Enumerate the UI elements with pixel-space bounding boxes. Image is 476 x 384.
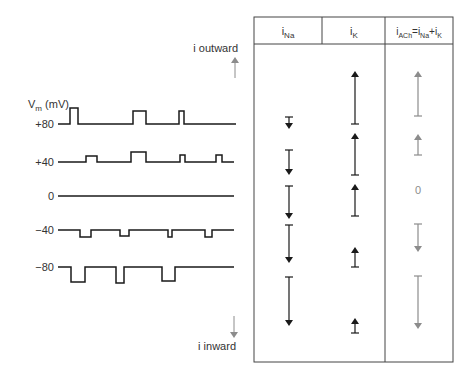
current-table xyxy=(254,17,453,362)
voltage-label: −80 xyxy=(35,261,54,273)
trace-plus80 xyxy=(58,108,236,124)
voltage-label: −40 xyxy=(35,224,54,236)
diagram-canvas: Vm (mV) i outward i inward +80 +40 0 −40… xyxy=(0,0,476,384)
ik-arrows xyxy=(351,74,359,333)
voltage-label: +80 xyxy=(35,118,54,130)
ina-arrows xyxy=(285,117,293,323)
y-axis-label: Vm (mV) xyxy=(28,98,69,113)
voltage-labels: +80 +40 0 −40 −80 xyxy=(35,118,54,273)
header-ik: iK xyxy=(350,25,358,40)
trace-minus80 xyxy=(58,267,234,283)
header-ina: iNa xyxy=(282,25,295,40)
voltage-label: 0 xyxy=(48,190,54,202)
trace-plus40 xyxy=(58,152,234,162)
current-traces xyxy=(58,108,236,283)
iach-zero-label: 0 xyxy=(415,184,421,196)
inward-label: i inward xyxy=(198,340,236,352)
outward-label: i outward xyxy=(193,42,238,54)
iach-arrows xyxy=(414,74,422,326)
voltage-label: +40 xyxy=(35,156,54,168)
trace-minus40 xyxy=(58,230,234,237)
header-iach: iACh=iNa+iK xyxy=(396,26,442,39)
